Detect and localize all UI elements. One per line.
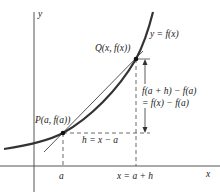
h-label: h = x − a <box>82 136 118 146</box>
point-p <box>61 131 66 136</box>
function-curve <box>4 12 153 149</box>
arrowhead-up <box>143 59 148 65</box>
point-q-label: Q(x, f(x)) <box>95 44 130 54</box>
curve-label: y = f(x) <box>150 30 179 40</box>
tick-x-label: x = a + h <box>117 172 153 182</box>
rise-label-line2: = f(x) − f(a) <box>142 99 189 109</box>
point-p-label: P(a, f(a)) <box>35 116 70 126</box>
y-axis-label: y <box>38 10 42 20</box>
secant-line-diagram: y x y = f(x) Q(x, f(x)) P(a, f(a)) h = x… <box>0 0 220 195</box>
x-axis-label: x <box>206 170 210 180</box>
point-q <box>134 57 139 62</box>
tick-a-label: a <box>59 172 64 182</box>
arrowhead-down <box>143 127 148 133</box>
rise-label-line1: f(a + h) − f(a) <box>142 87 197 97</box>
